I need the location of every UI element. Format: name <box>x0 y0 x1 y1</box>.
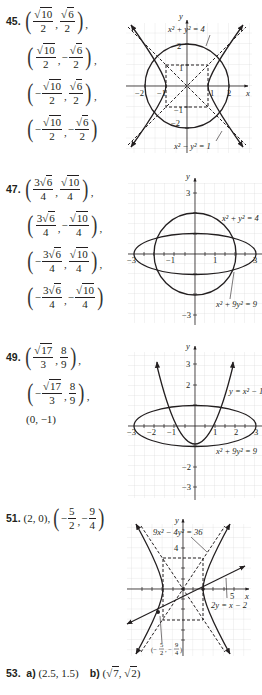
problem-53: 53. a) (2.5, 1.5) b) (√7, √2) <box>6 667 140 679</box>
svg-text:, −: , − <box>165 646 172 653</box>
solution-row: 45. ( √102 , √62 ), <box>6 3 99 39</box>
svg-text:−2: −2 <box>135 88 144 98</box>
problem-number: 47. <box>6 184 21 195</box>
problem-49: 49. ( √173 , 89 ), (− √173 , 89 ), (0, −… <box>6 339 91 425</box>
solution-extra: (0, −1) <box>6 414 91 425</box>
problem-47: 47. ( 3√64 , √104 ), ( 3√64 ,− √104 ), (… <box>6 171 105 315</box>
svg-text:−1: −1 <box>167 427 176 437</box>
svg-text:−1: −1 <box>174 105 183 115</box>
ellipse-label: x² + 9y² = 9 <box>215 446 258 456</box>
part-a-label: a) <box>26 667 35 679</box>
solution-row: (− 3√64 ,− √104 ) <box>6 279 105 315</box>
svg-text:2: 2 <box>234 427 238 437</box>
svg-text:y: y <box>174 518 179 525</box>
line-label: 2y = x − 2 <box>211 600 248 610</box>
solution-row: (− √102 ,− √62 ) <box>6 111 99 147</box>
solution-row: 51. (2, 0), (− 52 ,− 94 ) <box>6 500 106 536</box>
hyperbola-label: 9x² − 4y² = 36 <box>153 527 203 537</box>
problem-number: 53. <box>6 667 21 679</box>
svg-text:−2: −2 <box>147 427 156 437</box>
problem-number: 51. <box>6 513 21 524</box>
svg-text:−3: −3 <box>127 427 136 437</box>
svg-text:1: 1 <box>179 63 183 73</box>
solution-row: (− √173 , 89 ), <box>6 375 91 411</box>
svg-text:−2: −2 <box>182 462 191 472</box>
intersection-point <box>156 610 160 614</box>
svg-text:3: 3 <box>254 427 258 437</box>
circle-label: x² + y² = 4 <box>167 24 206 34</box>
problem-number: 49. <box>6 352 21 363</box>
svg-text:−3: −3 <box>127 255 136 265</box>
solution-row: 47. ( 3√64 , √104 ), <box>6 171 105 207</box>
problem-number: 45. <box>6 16 21 27</box>
ellipse-label: x² + 9y² = 9 <box>215 299 258 309</box>
graph-45: −2 −1 1 2 2 1 −1 −2 x y x² + y² = 4 x² −… <box>124 14 254 156</box>
svg-text:2: 2 <box>227 88 231 98</box>
parabola-label: y = x² − 1 <box>228 386 262 396</box>
graph-51: 5 4 x y 9x² − 4y² = 36 2y = x − 2 (− 52 … <box>123 518 255 658</box>
solution-row: (− √102 , √62 ), <box>6 75 99 111</box>
svg-text:): ) <box>180 646 182 654</box>
part-a-value: (2.5, 1.5) <box>38 667 78 679</box>
graph-49: −3 −2 −1 1 2 3 3 2 −2 −3 y y = x² − 1 x²… <box>126 342 262 500</box>
svg-text:1: 1 <box>210 88 214 98</box>
svg-text:2: 2 <box>177 41 181 51</box>
svg-text:−2: −2 <box>171 118 180 128</box>
solution-row: ( √102 ,− √62 ), <box>6 39 99 75</box>
svg-text:y: y <box>185 342 190 351</box>
problem-51: 51. (2, 0), (− 52 ,− 94 ) <box>6 500 106 536</box>
svg-text:3: 3 <box>253 255 257 265</box>
solution-row: (− 3√64 , √104 ), <box>6 243 105 279</box>
solution-row: 49. ( √173 , 89 ), <box>6 339 91 375</box>
circle-label: x² + y² = 4 <box>221 213 260 223</box>
svg-text:−1: −1 <box>166 255 175 265</box>
svg-text:y: y <box>185 175 190 181</box>
svg-text:x: x <box>245 88 250 98</box>
svg-text:y: y <box>178 14 183 21</box>
hyperbola-label: x² − y² = 1 <box>173 141 211 151</box>
svg-text:1: 1 <box>213 427 217 437</box>
svg-text:2: 2 <box>160 649 163 656</box>
part-b-label: b) <box>90 667 100 679</box>
svg-text:−3: −3 <box>182 482 191 492</box>
svg-text:1: 1 <box>213 255 217 265</box>
problem-45: 45. ( √102 , √62 ), ( √102 ,− √62 ), (− … <box>6 3 99 147</box>
svg-text:−1: −1 <box>157 88 166 98</box>
graph-47: −3 −1 1 3 3 −3 y x² + y² = 4 x² + 9y² = … <box>126 175 262 325</box>
part-b-value: (√7, √2) <box>102 666 140 679</box>
svg-text:5: 5 <box>160 641 163 648</box>
svg-text:(−: (− <box>151 646 157 654</box>
svg-text:3: 3 <box>186 188 190 198</box>
svg-text:−3: −3 <box>182 310 191 320</box>
svg-text:3: 3 <box>186 359 190 369</box>
svg-text:2: 2 <box>186 380 190 390</box>
svg-text:9: 9 <box>175 641 178 648</box>
solution-row: ( 3√64 ,− √104 ), <box>6 207 105 243</box>
